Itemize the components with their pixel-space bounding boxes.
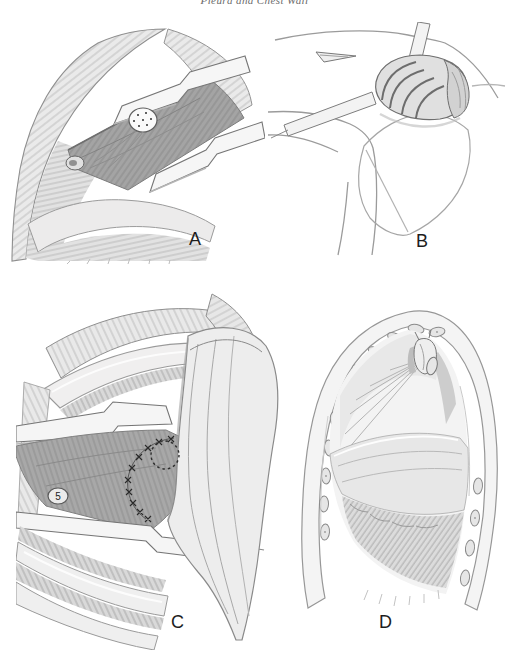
- panel-a-illustration: [10, 28, 265, 264]
- figure-page: Pleura and Chest Wall: [0, 0, 509, 657]
- muscle-flap: [168, 328, 278, 640]
- small-incision: [316, 52, 356, 62]
- panel-d-label: D: [379, 613, 392, 631]
- running-header: Pleura and Chest Wall: [0, 0, 509, 6]
- rib-five-stump: 5: [48, 488, 68, 504]
- rib-number-label: 5: [55, 491, 61, 502]
- lower-rib-band: [28, 200, 215, 264]
- panel-b-illustration: [268, 22, 506, 257]
- vessel-stump: [66, 156, 84, 170]
- lower-tape: [271, 92, 376, 138]
- panel-c-illustration: 5: [16, 286, 318, 650]
- lower-ribs: [16, 526, 168, 650]
- rolled-muscle-flap: [376, 55, 469, 127]
- panel-a-label: A: [189, 230, 201, 248]
- panel-c-label: C: [171, 613, 184, 631]
- panel-d-illustration: [298, 296, 506, 620]
- panel-b-label: B: [416, 232, 428, 250]
